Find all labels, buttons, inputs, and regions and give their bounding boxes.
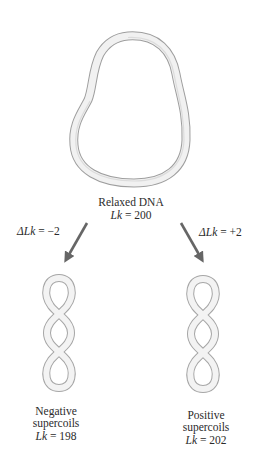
lk-symbol: Lk [111, 209, 123, 221]
negative-lk: Lk = 198 [36, 430, 77, 443]
arrow-negative [67, 223, 87, 258]
lk-symbol: Lk [186, 434, 198, 446]
delta-lk-value: = −2 [38, 225, 60, 237]
positive-label-line2: supercoils [183, 421, 230, 434]
relaxed-dna-loop [74, 36, 186, 183]
relaxed-dna-title: Relaxed DNA [98, 196, 163, 209]
lk-value: = 198 [50, 430, 77, 442]
positive-lk: Lk = 202 [186, 434, 227, 447]
delta-lk-negative: ΔLk = −2 [17, 225, 60, 238]
positive-supercoil [190, 279, 215, 389]
delta-lk-value: = +2 [220, 226, 242, 238]
delta-lk-symbol: ΔLk [199, 226, 217, 238]
delta-lk-symbol: ΔLk [17, 225, 35, 237]
lk-value: = 200 [125, 209, 152, 221]
delta-lk-positive: ΔLk = +2 [199, 226, 242, 239]
negative-label-line2: supercoils [33, 417, 80, 430]
arrow-positive [181, 223, 201, 258]
negative-supercoil [46, 278, 71, 388]
lk-value: = 202 [200, 434, 227, 446]
lk-symbol: Lk [36, 430, 48, 442]
relaxed-dna-lk: Lk = 200 [111, 209, 152, 222]
